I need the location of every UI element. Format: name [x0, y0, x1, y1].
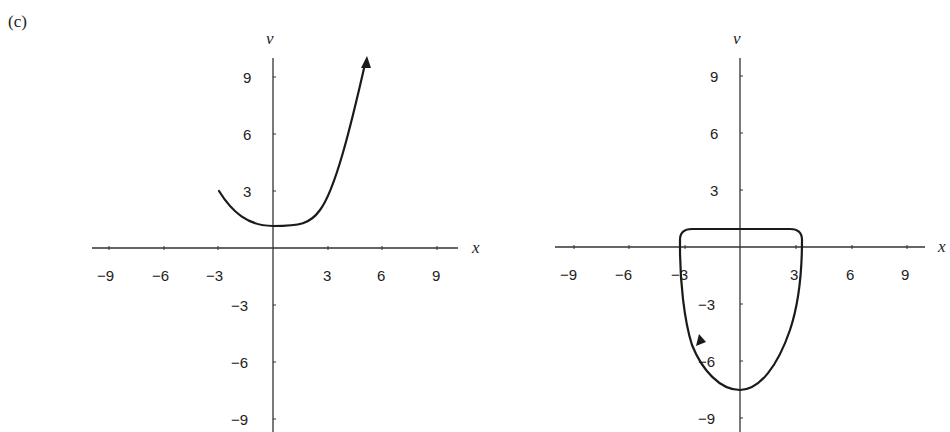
left-trajectory-curve — [219, 64, 365, 226]
svg-text:9: 9 — [710, 68, 718, 85]
phase-plots: x v −9 −6 −3 3 6 9 9 6 3 − — [0, 0, 950, 432]
left-arrowhead-icon — [361, 56, 371, 68]
svg-text:−9: −9 — [231, 411, 248, 428]
left-x-ticks: −9 −6 −3 3 6 9 — [97, 246, 440, 284]
svg-text:6: 6 — [710, 125, 718, 142]
left-plot: x v −9 −6 −3 3 6 9 9 6 3 − — [92, 29, 480, 432]
svg-text:−3: −3 — [231, 297, 248, 314]
svg-text:3: 3 — [243, 183, 251, 200]
svg-text:3: 3 — [323, 267, 331, 284]
svg-text:−9: −9 — [698, 410, 715, 427]
svg-text:3: 3 — [710, 182, 718, 199]
svg-text:−9: −9 — [560, 266, 577, 283]
right-x-axis-label: x — [937, 237, 946, 256]
svg-text:6: 6 — [846, 266, 854, 283]
right-x-ticks: −9 −6 −3 3 6 9 — [560, 245, 909, 283]
svg-text:−6: −6 — [231, 354, 248, 371]
svg-text:−6: −6 — [615, 266, 632, 283]
right-y-axis-label: v — [733, 29, 741, 48]
svg-text:9: 9 — [901, 266, 909, 283]
svg-text:3: 3 — [790, 266, 798, 283]
svg-text:−9: −9 — [97, 267, 114, 284]
right-plot: x v −9 −6 −3 3 6 9 9 6 3 −3 −6 — [555, 29, 946, 432]
svg-text:−3: −3 — [206, 267, 223, 284]
svg-text:9: 9 — [243, 69, 251, 86]
svg-text:−3: −3 — [698, 296, 715, 313]
svg-text:−6: −6 — [152, 267, 169, 284]
right-arrowhead-icon — [696, 334, 706, 346]
left-x-axis-label: x — [471, 238, 480, 257]
svg-text:6: 6 — [243, 126, 251, 143]
svg-text:9: 9 — [432, 267, 440, 284]
left-y-axis-label: v — [266, 29, 274, 48]
svg-text:6: 6 — [377, 267, 385, 284]
